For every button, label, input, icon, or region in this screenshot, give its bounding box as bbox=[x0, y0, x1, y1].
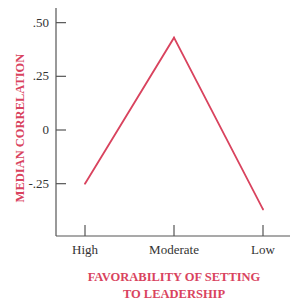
x-axis: HighModerateLow bbox=[56, 225, 290, 257]
y-axis-title: MEDIAN CORRELATION bbox=[13, 54, 27, 203]
x-axis-title-line-1: FAVORABILITY OF SETTING bbox=[88, 270, 261, 284]
data-point bbox=[84, 183, 86, 185]
y-tick-label: .50 bbox=[33, 15, 49, 30]
y-tick-label: .25 bbox=[33, 68, 49, 83]
x-axis-title-line-2: TO LEADERSHIP bbox=[123, 287, 226, 301]
y-axis: .50.250-.25 bbox=[28, 8, 66, 236]
x-tick-label: Moderate bbox=[149, 242, 199, 257]
y-tick-label: 0 bbox=[43, 122, 50, 137]
series bbox=[84, 37, 264, 211]
data-point bbox=[262, 209, 264, 211]
data-point bbox=[173, 37, 175, 39]
series-line bbox=[85, 38, 263, 210]
x-tick-label: Low bbox=[251, 242, 275, 257]
x-tick-label: High bbox=[72, 242, 99, 257]
y-tick-label: -.25 bbox=[28, 176, 49, 191]
chart: .50.250-.25 HighModerateLow MEDIAN CORRE… bbox=[0, 0, 306, 307]
